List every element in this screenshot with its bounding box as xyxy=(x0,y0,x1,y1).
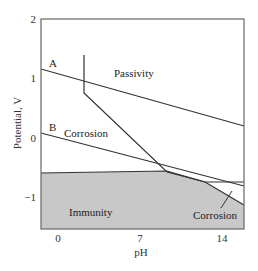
y-tick-1: 1 xyxy=(31,72,37,84)
label-corrosion-acidic: Corrosion xyxy=(64,127,109,139)
x-axis-label: pH xyxy=(134,246,148,258)
label-b: B xyxy=(49,121,56,133)
label-a: A xyxy=(49,57,57,69)
y-tick-2: 2 xyxy=(31,13,37,25)
x-tick-7: 7 xyxy=(137,232,143,244)
pourbaix-diagram: 2 1 0 −1 0 7 14 pH Potential, V A B Pass… xyxy=(0,0,258,271)
label-corrosion-alkaline: Corrosion xyxy=(193,209,238,221)
label-immunity: Immunity xyxy=(69,206,113,218)
y-tick-neg1: −1 xyxy=(24,191,36,203)
x-tick-14: 14 xyxy=(217,232,229,244)
y-axis-label: Potential, V xyxy=(11,97,23,149)
label-passivity: Passivity xyxy=(114,67,154,79)
x-tick-0: 0 xyxy=(55,232,61,244)
y-tick-0: 0 xyxy=(31,132,37,144)
